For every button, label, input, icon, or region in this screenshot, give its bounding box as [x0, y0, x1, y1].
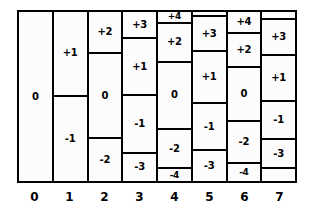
- axis-tick-label: 6: [240, 191, 248, 203]
- axis-tick-7: 7: [262, 185, 297, 209]
- cell-label: +3: [202, 29, 217, 39]
- cell-label: +4: [237, 17, 252, 27]
- cell-label: +3: [271, 32, 286, 42]
- cell-level-minus2: -2: [158, 130, 191, 169]
- axis-tick-1: 1: [52, 185, 87, 209]
- axis-tick-5: 5: [192, 185, 227, 209]
- cell-spacer: [262, 169, 295, 181]
- cell-level-minus3: -3: [123, 154, 156, 181]
- cell-label: +1: [132, 62, 147, 72]
- column-4: +4+20-2-4: [158, 12, 193, 181]
- cell-level-0: 0: [19, 12, 52, 181]
- cell-level-0: 0: [89, 54, 122, 139]
- cell-label: 0: [32, 92, 39, 102]
- cell-level-minus3: -3: [262, 140, 295, 169]
- axis-tick-label: 3: [135, 191, 143, 203]
- axis-tick-label: 1: [65, 191, 73, 203]
- column-5: +3+1-1-3: [193, 12, 228, 181]
- cell-level-plus3: +3: [262, 20, 295, 55]
- cell-level-plus4: +4: [228, 12, 261, 34]
- cell-level-plus3: +3: [193, 17, 226, 52]
- cell-level-minus1: -1: [54, 97, 87, 182]
- axis-tick-4: 4: [157, 185, 192, 209]
- cell-label: 0: [241, 89, 248, 99]
- plot-frame: 0+1-1+20-2+3+1-1-3+4+20-2-4+3+1-1-3+4+20…: [17, 10, 297, 183]
- cell-label: -1: [204, 122, 215, 132]
- cell-label: -1: [65, 134, 76, 144]
- cell-level-plus2: +2: [158, 24, 191, 63]
- cell-label: +4: [168, 12, 181, 21]
- cell-label: -1: [273, 115, 284, 125]
- cell-label: -3: [273, 149, 284, 159]
- column-6: +4+20-2-4: [228, 12, 263, 181]
- columns-container: 0+1-1+20-2+3+1-1-3+4+20-2-4+3+1-1-3+4+20…: [19, 12, 295, 181]
- column-3: +3+1-1-3: [123, 12, 158, 181]
- axis-tick-3: 3: [122, 185, 157, 209]
- cell-level-0: 0: [158, 63, 191, 131]
- cell-level-minus4: -4: [228, 164, 261, 181]
- axis-tick-6: 6: [227, 185, 262, 209]
- cell-label: -2: [169, 144, 180, 154]
- cell-label: +1: [271, 73, 286, 83]
- cell-level-minus1: -1: [123, 96, 156, 153]
- cell-label: -1: [134, 119, 145, 129]
- cell-level-minus2: -2: [89, 139, 122, 181]
- cell-label: -4: [170, 171, 179, 180]
- axis-tick-0: 0: [17, 185, 52, 209]
- cell-label: -3: [134, 162, 145, 172]
- axis-tick-label: 5: [205, 191, 213, 203]
- x-axis-tick-labels: 01234567: [17, 185, 297, 209]
- cell-label: -4: [239, 168, 248, 177]
- cell-label: +3: [132, 20, 147, 30]
- cell-label: +1: [63, 48, 78, 58]
- axis-tick-2: 2: [87, 185, 122, 209]
- cell-level-plus1: +1: [262, 56, 295, 102]
- cell-level-minus2: -2: [228, 122, 261, 164]
- cell-label: -2: [239, 137, 250, 147]
- column-7: +3+1-1-3: [262, 12, 295, 181]
- cell-level-plus1: +1: [123, 39, 156, 96]
- cell-level-minus1: -1: [262, 102, 295, 141]
- column-0: 0: [19, 12, 54, 181]
- cell-level-plus1: +1: [54, 12, 87, 97]
- cell-level-plus3: +3: [123, 12, 156, 39]
- cell-label: +1: [202, 72, 217, 82]
- cell-label: 0: [171, 90, 178, 100]
- cell-label: +2: [98, 27, 113, 37]
- cell-level-plus1: +1: [193, 52, 226, 104]
- cell-label: +2: [237, 45, 252, 55]
- cell-level-minus3: -3: [193, 151, 226, 181]
- axis-tick-label: 7: [275, 191, 283, 203]
- cell-label: -3: [204, 161, 215, 171]
- axis-tick-label: 0: [30, 191, 38, 203]
- cell-spacer: [262, 12, 295, 20]
- cell-level-plus2: +2: [89, 12, 122, 54]
- axis-tick-label: 4: [170, 191, 178, 203]
- cell-label: +2: [167, 37, 182, 47]
- column-2: +20-2: [89, 12, 124, 181]
- cell-label: 0: [102, 91, 109, 101]
- cell-label: -2: [100, 155, 111, 165]
- cell-level-plus4: +4: [158, 12, 191, 24]
- column-1: +1-1: [54, 12, 89, 181]
- cell-level-0: 0: [228, 68, 261, 122]
- cell-level-plus2: +2: [228, 34, 261, 68]
- cell-level-minus4: -4: [158, 169, 191, 181]
- cell-level-minus1: -1: [193, 104, 226, 151]
- quantization-levels-diagram: 0+1-1+20-2+3+1-1-3+4+20-2-4+3+1-1-3+4+20…: [0, 0, 314, 216]
- axis-tick-label: 2: [100, 191, 108, 203]
